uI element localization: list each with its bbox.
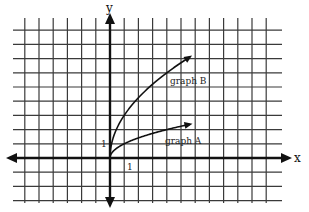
x-axis-left-arrow-icon (6, 153, 17, 163)
graph-canvas: y x 1 1 graph A graph B (0, 0, 309, 212)
grid-lines (13, 18, 282, 203)
y-axis-label: y (105, 1, 113, 15)
y-unit-label: 1 (101, 139, 107, 149)
graph-a-arrow-icon (184, 122, 193, 129)
graph-a-label: graph A (165, 136, 202, 146)
graph-b-arrow-icon (183, 56, 192, 63)
x-axis-right-arrow-icon (281, 153, 292, 163)
x-unit-label: 1 (127, 162, 133, 172)
x-axis-label: x (294, 151, 301, 165)
y-axis-down-arrow-icon (105, 197, 115, 208)
coordinate-plane-diagram: y x 1 1 graph A graph B (0, 0, 309, 212)
graph-b-label: graph B (170, 76, 207, 86)
axes (6, 13, 292, 208)
